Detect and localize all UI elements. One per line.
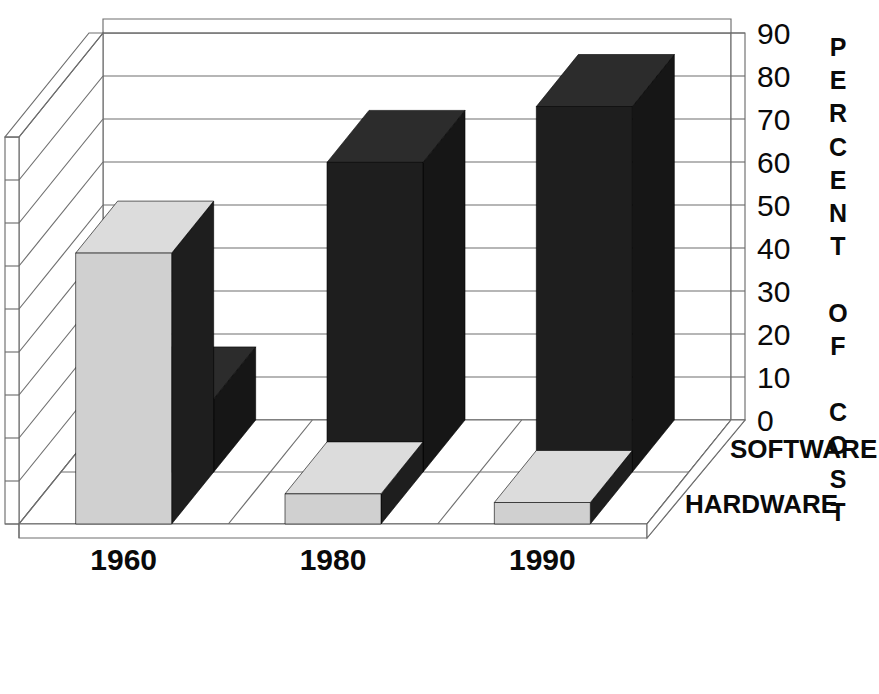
bar-front-face <box>327 162 423 472</box>
chart-canvas: 9080706050403020100 PERCENTOFCOST 196019… <box>0 0 879 694</box>
y-tick-label-80: 80 <box>757 60 790 93</box>
bar-front-face <box>285 494 381 524</box>
y-axis-title-letter-8: O <box>828 299 847 327</box>
floor-front-lip <box>19 524 647 538</box>
y-axis-title-letter-4: E <box>830 166 847 194</box>
x-axis-label-1960: 1960 <box>90 543 157 576</box>
y-axis-title-letter-5: N <box>829 199 847 227</box>
x-axis-category-labels: 196019801990 <box>90 543 575 576</box>
y-tick-label-30: 30 <box>757 275 790 308</box>
bar-side-face <box>632 55 674 473</box>
y-axis-title-letter-9: F <box>830 332 845 360</box>
x-axis-label-1980: 1980 <box>300 543 367 576</box>
bar-front-face <box>76 253 172 524</box>
left-wall-slab <box>5 137 19 524</box>
bar-front-face <box>536 107 632 473</box>
y-axis-title-letter-0: P <box>830 33 847 61</box>
bar-software-1980 <box>327 110 465 472</box>
bar-side-face <box>172 201 214 524</box>
series-label-software: SOFTWARE <box>730 434 877 464</box>
y-axis-tick-labels: 9080706050403020100 <box>757 17 790 437</box>
y-axis-title-letter-11: C <box>829 398 847 426</box>
y-axis-title-letter-2: R <box>829 99 847 127</box>
y-tick-label-0: 0 <box>757 404 774 437</box>
bar-front-face <box>494 503 590 525</box>
x-axis-label-1990: 1990 <box>509 543 576 576</box>
y-tick-label-70: 70 <box>757 103 790 136</box>
y-tick-label-40: 40 <box>757 232 790 265</box>
y-axis-title-letter-6: T <box>830 232 845 260</box>
y-tick-label-20: 20 <box>757 318 790 351</box>
y-tick-label-10: 10 <box>757 361 790 394</box>
y-axis-title-letter-1: E <box>830 66 847 94</box>
y-tick-label-60: 60 <box>757 146 790 179</box>
y-tick-label-50: 50 <box>757 189 790 222</box>
bar-side-face <box>423 110 465 472</box>
back-wall-top-lip <box>103 19 731 33</box>
right-axis-slab <box>731 33 745 420</box>
y-axis-title-letter-3: C <box>829 133 847 161</box>
bar-software-1990 <box>536 55 674 473</box>
bar-hardware-1960 <box>76 201 214 524</box>
series-label-hardware: HARDWARE <box>685 489 838 519</box>
bar-chart-3d: 9080706050403020100 PERCENTOFCOST 196019… <box>0 0 879 694</box>
y-tick-label-90: 90 <box>757 17 790 50</box>
